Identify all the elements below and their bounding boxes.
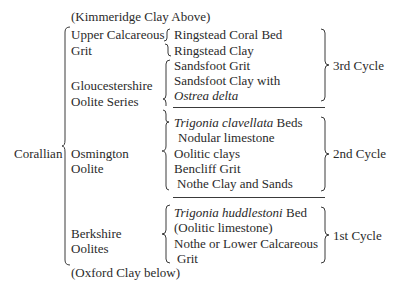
group-name: Corallian xyxy=(14,146,62,161)
brace-2nd-cycle-icon xyxy=(320,116,332,192)
bed-trigonia-huddlestoni-suffix: Bed xyxy=(283,205,307,220)
bed-nodular-limestone: Nodular limestone xyxy=(178,130,274,145)
bed-ringstead-clay: Ringstead Clay xyxy=(174,43,254,58)
bed-nothe-lower-calcareous: Nothe or Lower Calcareous xyxy=(174,236,318,251)
below-note: (Oxford Clay below) xyxy=(71,265,180,280)
above-note: (Kimmeridge Clay Above) xyxy=(71,9,210,24)
bed-sandsfoot-grit: Sandsfoot Grit xyxy=(174,58,250,73)
brace-gloucestershire-icon xyxy=(162,59,172,107)
bed-trigonia-huddlestoni-species: Trigonia huddlestoni xyxy=(174,205,283,220)
formation-berkshire-1: Berkshire xyxy=(71,226,122,241)
brace-1st-cycle-icon xyxy=(320,206,332,264)
bed-nothe-clay: Nothe Clay and Sands xyxy=(177,176,293,191)
bed-bencliff-grit: Bencliff Grit xyxy=(174,161,241,176)
brace-osmington-icon xyxy=(160,110,172,192)
bed-trigonia-clavellata: Trigonia clavellata Beds xyxy=(174,115,303,130)
formation-osmington-2: Oolite xyxy=(71,161,104,176)
bed-trigonia-clavellata-species: Trigonia clavellata xyxy=(174,115,273,130)
formation-gloucestershire-1: Gloucestershire xyxy=(71,78,153,93)
bed-trigonia-huddlestoni: Trigonia huddlestoni Bed xyxy=(174,205,307,220)
bed-oolitic-limestone: (Oolitic limestone) xyxy=(174,220,273,235)
cycle-divider-1 xyxy=(173,107,325,108)
formation-gloucestershire-2: Oolite Series xyxy=(71,94,139,109)
brace-upper-calc-bottom-icon xyxy=(164,43,172,57)
formation-berkshire-2: Oolites xyxy=(71,241,109,256)
bed-ostrea-delta: Ostrea delta xyxy=(174,88,238,103)
bed-trigonia-clavellata-suffix: Beds xyxy=(273,115,302,130)
brace-berkshire-icon xyxy=(162,204,172,264)
formation-upper-calcareous-2: Grit xyxy=(71,43,92,58)
cycle-divider-2 xyxy=(173,197,325,198)
brace-3rd-cycle-icon xyxy=(320,28,332,102)
cycle-3rd: 3rd Cycle xyxy=(333,58,384,73)
bed-ringstead-coral: Ringstead Coral Bed xyxy=(174,27,282,42)
cycle-1st: 1st Cycle xyxy=(333,228,382,243)
formation-osmington-1: Osmington xyxy=(71,146,129,161)
bed-oolitic-clays: Oolitic clays xyxy=(174,146,240,161)
bed-grit: Grit xyxy=(177,251,198,266)
bed-sandsfoot-clay: Sandsfoot Clay with xyxy=(174,73,280,88)
formation-upper-calcareous-1: Upper Calcareous xyxy=(71,27,165,42)
brace-upper-calc-top-icon xyxy=(163,28,171,42)
cycle-2nd: 2nd Cycle xyxy=(333,146,386,161)
